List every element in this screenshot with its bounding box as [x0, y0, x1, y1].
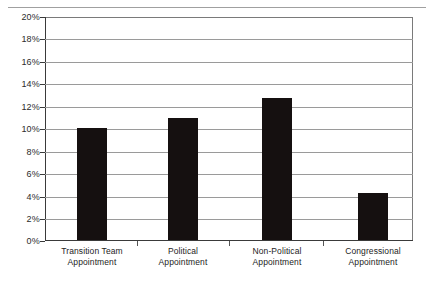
bar-congressional-appointment: [358, 193, 388, 240]
plot-border-top: [45, 17, 413, 18]
y-tick-label: 20%: [6, 13, 40, 22]
x-axis-separator-tick: [323, 241, 324, 246]
y-tick-label: 14%: [6, 80, 40, 89]
bar-political-appointment: [168, 118, 198, 240]
gridline: [45, 39, 413, 40]
y-tick-label: 4%: [6, 193, 40, 202]
plot-area: [45, 17, 413, 241]
y-tick-label: 8%: [6, 148, 40, 157]
y-tick-label: 6%: [6, 170, 40, 179]
y-tick-label: 12%: [6, 103, 40, 112]
gridline: [45, 107, 413, 108]
scanned-page-rule: [8, 7, 426, 8]
category-label-line-1: Congressional: [345, 246, 401, 256]
y-tick-label: 2%: [6, 215, 40, 224]
bar-non-political-appointment: [262, 98, 292, 240]
bar-transition-team-appointment: [77, 128, 107, 240]
x-axis-category-label-3: Congressional Appointment: [328, 246, 418, 267]
category-label-line-1: Political: [168, 246, 198, 256]
x-axis-category-label-1: Political Appointment: [138, 246, 228, 267]
y-tick-mark: [40, 241, 45, 242]
x-axis-separator-tick: [229, 241, 230, 246]
category-label-line-1: Non-Political: [252, 246, 301, 256]
category-label-line-2: Appointment: [232, 257, 322, 268]
y-tick-label: 18%: [6, 35, 40, 44]
y-tick-label: 16%: [6, 58, 40, 67]
category-label-line-2: Appointment: [47, 257, 137, 268]
x-axis-category-label-0: Transition Team Appointment: [47, 246, 137, 267]
category-label-line-2: Appointment: [328, 257, 418, 268]
x-axis-category-label-2: Non-Political Appointment: [232, 246, 322, 267]
category-label-line-2: Appointment: [138, 257, 228, 268]
bar-chart-screenshot: 20% 18% 16% 14% 12% 10% 8% 6% 4% 2% 0%: [0, 0, 430, 281]
category-label-line-1: Transition Team: [61, 246, 123, 256]
y-axis-tick-labels: 20% 18% 16% 14% 12% 10% 8% 6% 4% 2% 0%: [0, 0, 40, 281]
y-tick-label: 10%: [6, 125, 40, 134]
gridline: [45, 84, 413, 85]
y-tick-label: 0%: [6, 237, 40, 246]
gridline: [45, 62, 413, 63]
